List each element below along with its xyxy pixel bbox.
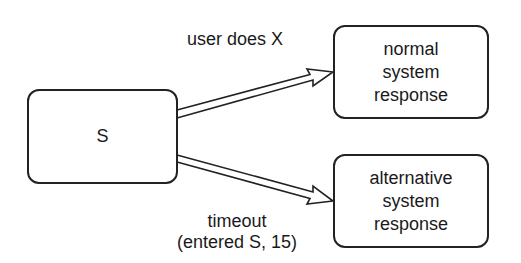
normal-response-line-3: response bbox=[374, 84, 448, 107]
alternative-response-line-2: system bbox=[369, 190, 452, 213]
alternative-response-line-3: response bbox=[369, 213, 452, 236]
arrow-user-does-x bbox=[177, 69, 333, 118]
normal-response-line-1: normal bbox=[374, 38, 448, 61]
alternative-response-line-1: alternative bbox=[369, 167, 452, 190]
state-s-label: S bbox=[96, 125, 108, 148]
alternative-response-box: alternative system response bbox=[333, 154, 489, 248]
normal-response-box: normal system response bbox=[333, 25, 489, 119]
edge-label-timeout-params: (entered S, 15) bbox=[162, 231, 312, 253]
state-s-box: S bbox=[27, 89, 178, 184]
normal-response-line-2: system bbox=[374, 61, 448, 84]
edge-label-user-does-x: user does X bbox=[180, 28, 290, 50]
edge-label-timeout: timeout bbox=[167, 210, 307, 232]
arrow-timeout bbox=[177, 155, 333, 204]
